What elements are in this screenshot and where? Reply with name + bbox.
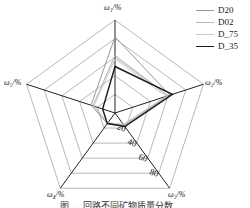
legend-item-d02: D02 — [196, 16, 238, 28]
axis-label-left: ω₅/% — [4, 78, 21, 87]
axis-label-bottom-left: ω₄/% — [47, 190, 64, 199]
axis-label-top: ω₁/% — [104, 3, 121, 12]
legend-item-d35: D_35 — [196, 40, 238, 52]
legend-item-d20: D20 — [196, 4, 238, 16]
ring-tick-label: 80 — [148, 167, 160, 179]
ring-tick-label: 60 — [137, 152, 149, 164]
axis-label-bottom-right: ω₃/% — [168, 190, 185, 199]
axis-spoke — [60, 113, 115, 188]
legend-swatch — [196, 46, 214, 47]
figure-caption: 图 ... 回路不同矿物质量分数 — [60, 199, 173, 208]
legend-swatch — [196, 10, 214, 11]
legend-swatch — [196, 22, 214, 23]
axis-label-right: ω₂/% — [205, 78, 222, 87]
legend-swatch — [196, 34, 214, 35]
ring-tick-label: 40 — [126, 137, 138, 149]
legend: D20 D02 D_75 D_35 — [196, 4, 238, 52]
legend-item-d75: D_75 — [196, 28, 238, 40]
